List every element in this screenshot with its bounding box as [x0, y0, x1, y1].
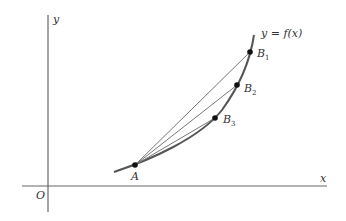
point-b1 [247, 49, 253, 55]
y-axis-label: y [52, 13, 60, 26]
secant-a-b2 [135, 85, 237, 165]
x-axis-label: x [320, 172, 327, 185]
point-b3-label: B3 [222, 113, 236, 128]
point-b3 [212, 115, 218, 121]
point-b1-label: B1 [256, 47, 270, 62]
secant-a-b1 [135, 52, 250, 165]
curve-label: y = f(x) [260, 27, 302, 40]
point-a-label: A [130, 170, 139, 183]
point-a [132, 162, 138, 168]
function-curve [114, 35, 254, 172]
origin-label: O [36, 189, 45, 202]
secant-diagram: y x O y = f(x) A B1 B2 B3 [0, 0, 346, 221]
point-b2 [234, 82, 240, 88]
point-b2-label: B2 [243, 82, 257, 97]
